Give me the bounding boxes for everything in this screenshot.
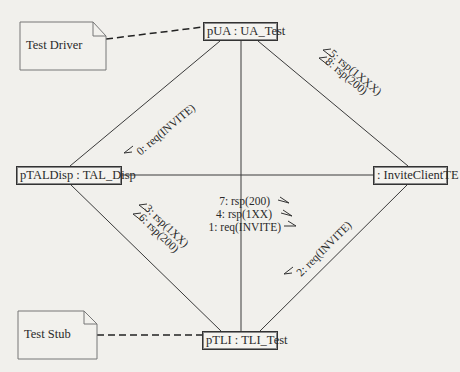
object-ptaldisp[interactable]: pTALDisp : TAL_Disp: [16, 166, 122, 185]
object-inviteclientte[interactable]: : InviteClientTE: [373, 166, 448, 185]
note-test-driver: Test Driver: [26, 38, 82, 53]
note-anchor-test-driver: [106, 27, 203, 39]
message-7: 7: rsp(200): [200, 195, 270, 208]
object-pua[interactable]: pUA : UA_Test: [203, 22, 278, 41]
arrow-msg-2-icon: [284, 267, 293, 274]
message-4: 4: rsp(1XX): [200, 208, 272, 221]
arrow-msg-4-icon: [281, 210, 292, 216]
arrow-msg-0-icon: [124, 146, 133, 153]
message-1: 1: req(INVITE): [200, 221, 281, 234]
note-test-stub: Test Stub: [24, 327, 71, 342]
link-inviteclient-ptli: [260, 184, 408, 331]
arrow-msg-1-icon: [284, 221, 296, 226]
object-ptli[interactable]: pTLI : TLI_Test: [202, 331, 278, 350]
arrow-msg-7-icon: [278, 197, 289, 203]
diagram-canvas: [0, 0, 460, 372]
